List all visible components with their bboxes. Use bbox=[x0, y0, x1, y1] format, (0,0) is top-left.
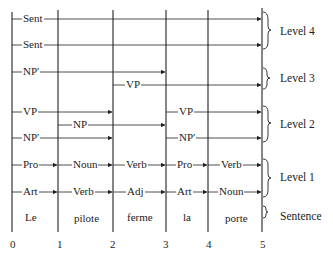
edge-label-vp-3-5: VP bbox=[178, 106, 194, 117]
word-le: Le bbox=[25, 212, 37, 223]
word-pilote: pilote bbox=[74, 213, 99, 224]
level-label-3: Level 3 bbox=[280, 72, 315, 84]
brace-level-1 bbox=[263, 159, 271, 197]
edge-label-adj-2-3: Adj bbox=[126, 186, 145, 197]
word-porte: porte bbox=[225, 213, 248, 224]
word-la: la bbox=[183, 212, 191, 223]
edge-label-noun-4-5: Noun bbox=[218, 186, 244, 197]
node-number-1: 1 bbox=[57, 239, 63, 250]
edge-label-sent-2: Sent bbox=[22, 39, 44, 50]
edge-label-noun-1-2: Noun bbox=[72, 159, 98, 170]
edge-label-np-1-3: NP bbox=[72, 119, 88, 130]
edge-label-np-prime-3-5: NP′ bbox=[178, 132, 196, 143]
edge-label-vp-2-5: VP bbox=[125, 79, 141, 90]
edge-label-pro-3-4: Pro bbox=[176, 159, 193, 170]
brace-sentence bbox=[263, 206, 268, 218]
brace-level-3 bbox=[263, 68, 270, 89]
node-number-2: 2 bbox=[110, 239, 116, 250]
edge-label-sent-1: Sent bbox=[22, 13, 44, 24]
brace-level-4 bbox=[263, 12, 271, 49]
word-ferme: ferme bbox=[127, 212, 153, 223]
edge-label-verb-2-3: Verb bbox=[125, 159, 148, 170]
edge-label-pro-0-1: Pro bbox=[22, 159, 39, 170]
edge-label-verb-1-2: Verb bbox=[72, 186, 95, 197]
node-number-5: 5 bbox=[260, 239, 266, 250]
brace-level-2 bbox=[263, 106, 271, 142]
level-braces bbox=[263, 12, 271, 218]
level-label-sentence: Sentence bbox=[280, 210, 322, 222]
edge-label-verb-4-5: Verb bbox=[220, 159, 243, 170]
edge-label-vp-0-2: VP bbox=[22, 106, 38, 117]
edge-label-np-prime-0-3: NP′ bbox=[22, 66, 40, 77]
node-number-3: 3 bbox=[163, 239, 169, 250]
edge-label-art-0-1: Art bbox=[22, 186, 39, 197]
edge-label-np-prime-0-2: NP′ bbox=[22, 132, 40, 143]
node-vertical-lines bbox=[12, 8, 262, 232]
level-label-4: Level 4 bbox=[280, 25, 315, 37]
level-label-1: Level 1 bbox=[280, 171, 315, 183]
edge-label-art-3-4: Art bbox=[176, 186, 193, 197]
level-label-2: Level 2 bbox=[280, 118, 315, 130]
node-number-4: 4 bbox=[206, 239, 212, 250]
node-number-0: 0 bbox=[10, 239, 16, 250]
